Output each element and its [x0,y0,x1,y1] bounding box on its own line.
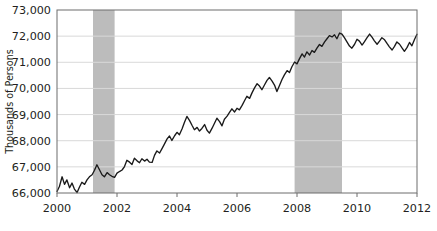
x-tick-label-2000: 2000 [43,202,71,215]
y-axis-title: Thousands of Persons [4,49,15,155]
y-tick-label-72000: 72,000 [12,30,51,43]
chart-canvas: 66,00067,00068,00069,00070,00071,00072,0… [0,0,437,231]
recession-band-2008 [295,10,342,193]
y-tick-label-73000: 73,000 [12,4,51,17]
x-axis-tick-labels-group: 2000200220042006200820102012 [43,202,431,215]
y-axis-tick-labels-group: 66,00067,00068,00069,00070,00071,00072,0… [12,4,51,200]
y-tick-label-69000: 69,000 [12,109,51,122]
x-tick-label-2008: 2008 [283,202,311,215]
x-axis-ticks-group [57,193,417,197]
x-tick-label-2012: 2012 [403,202,431,215]
y-tick-label-68000: 68,000 [12,135,51,148]
x-tick-label-2002: 2002 [103,202,131,215]
y-tick-label-70000: 70,000 [12,82,51,95]
x-tick-label-2004: 2004 [163,202,191,215]
x-tick-label-2006: 2006 [223,202,251,215]
y-tick-label-71000: 71,000 [12,56,51,69]
y-tick-label-67000: 67,000 [12,161,51,174]
x-tick-label-2010: 2010 [343,202,371,215]
y-axis-title-group: Thousands of Persons [4,49,15,155]
employment-line-chart: 66,00067,00068,00069,00070,00071,00072,0… [0,0,437,231]
y-tick-label-66000: 66,000 [12,187,51,200]
